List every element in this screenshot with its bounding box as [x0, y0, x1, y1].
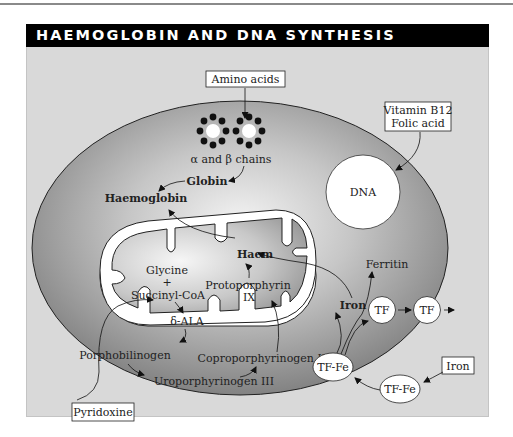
pyridoxine-label: Pyridoxine [73, 406, 132, 419]
mitochondrion [100, 210, 316, 326]
vitamin-b12-label: Vitamin B12 [383, 104, 453, 117]
amino-acids-label: Amino acids [210, 73, 279, 86]
protoporphyrin-label-2: IX [243, 291, 255, 304]
ferritin-label: Ferritin [366, 258, 409, 271]
porphobilinogen-label: Porphobilinogen [79, 349, 171, 362]
folic-acid-label: Folic acid [391, 117, 445, 130]
plus-sign: + [162, 276, 171, 289]
haem-label: Haem [237, 248, 274, 261]
tf-fe-external-label: TF-Fe [384, 383, 416, 396]
tf-node-2-label: TF [420, 304, 435, 317]
uroporphyrinogen-label: Uroporphyrinogen III [154, 375, 274, 388]
alpha-beta-chains-label: α and β chains [190, 153, 271, 166]
alpha-chain-ring-icon [197, 114, 230, 149]
dna-label: DNA [350, 186, 377, 199]
tf-node-1-label: TF [375, 304, 390, 317]
coproporphyrinogen-label: Coproporphyrinogen III [198, 352, 331, 365]
haemoglobin-label: Haemoglobin [105, 192, 188, 205]
globin-label: Globin [187, 175, 228, 188]
delta-ala-label: δ-ALA [170, 315, 205, 328]
iron-internal-label: Iron [340, 299, 366, 312]
beta-chain-ring-icon [233, 114, 266, 149]
haemoglobin-diagram: DNA Amino acids α and β chains Globin Ha… [0, 0, 513, 437]
iron-external-label: Iron [446, 360, 469, 373]
tf-fe-internal-label: TF-Fe [317, 361, 349, 374]
